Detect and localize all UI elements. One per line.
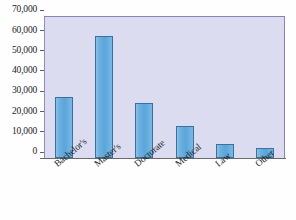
- y-axis-tick-label: 50,000: [12, 46, 40, 56]
- y-axis-tick-label: 60,000: [12, 26, 40, 36]
- y-axis-tick-mark: [40, 10, 44, 11]
- y-axis-tick-label: 70,000: [12, 5, 40, 15]
- y-axis-tick-label: 40,000: [12, 66, 40, 76]
- y-axis-tick-label: 0: [32, 147, 40, 157]
- y-axis-tick-label: 30,000: [12, 86, 40, 96]
- bar-masters[interactable]: [95, 36, 113, 158]
- bar-chart: 70,000 60,000 50,000 40,000 30,000 20,00…: [0, 0, 296, 220]
- x-axis: Bachelor's Master's Doctorate Medical La…: [44, 158, 285, 220]
- y-axis-tick-label: 10,000: [12, 127, 40, 137]
- y-axis: 70,000 60,000 50,000 40,000 30,000 20,00…: [0, 10, 44, 162]
- y-axis-tick-label: 20,000: [12, 107, 40, 117]
